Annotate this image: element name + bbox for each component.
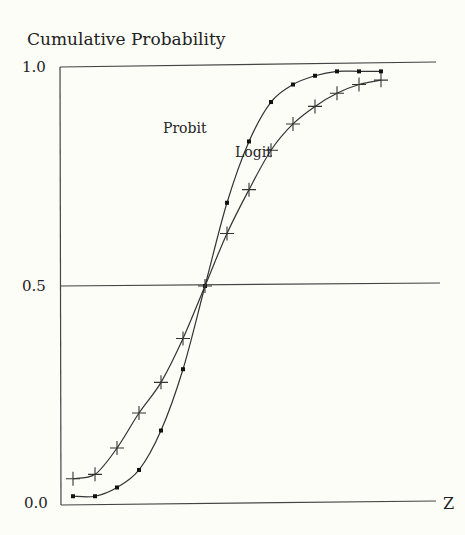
probit-marker [93, 494, 97, 498]
logit-label: Logit [235, 144, 272, 160]
probit-marker [137, 468, 141, 472]
probit-marker [225, 201, 229, 205]
probit-marker [269, 100, 273, 104]
probit-marker [115, 485, 119, 489]
y-axis-title: Cumulative Probability [27, 29, 226, 49]
logit-marker [242, 183, 256, 197]
x-axis [61, 501, 436, 505]
logit-curve [73, 80, 381, 479]
logit-marker [66, 472, 80, 486]
gridline-1 [60, 62, 436, 67]
logit-marker [154, 375, 168, 389]
probit-marker [357, 69, 361, 73]
y-tick-0: 0.0 [24, 494, 48, 512]
y-axis [60, 67, 61, 505]
logit-marker [110, 441, 124, 455]
logit-marker [352, 78, 366, 92]
probit-marker [291, 83, 295, 87]
y-tick-1: 1.0 [22, 58, 46, 76]
logit-marker [220, 226, 234, 240]
logit-marker [374, 73, 388, 87]
probit-marker [181, 367, 185, 371]
logit-marker [132, 406, 146, 420]
probit-marker [247, 139, 251, 143]
probit-marker [335, 69, 339, 73]
gridline-05 [60, 283, 440, 286]
probit-marker [159, 429, 163, 433]
y-tick-05: 0.5 [22, 277, 46, 295]
cdf-chart: Cumulative Probability 1.0 0.5 0.0 Z Pro… [0, 0, 465, 535]
logit-marker [198, 279, 212, 293]
logit-marker [330, 86, 344, 100]
probit-marker [71, 494, 75, 498]
probit-marker [379, 69, 383, 73]
logit-marker [308, 99, 322, 113]
logit-marker [176, 332, 190, 346]
probit-marker [313, 74, 317, 78]
x-axis-label: Z [443, 494, 454, 513]
probit-label: Probit [163, 120, 207, 136]
